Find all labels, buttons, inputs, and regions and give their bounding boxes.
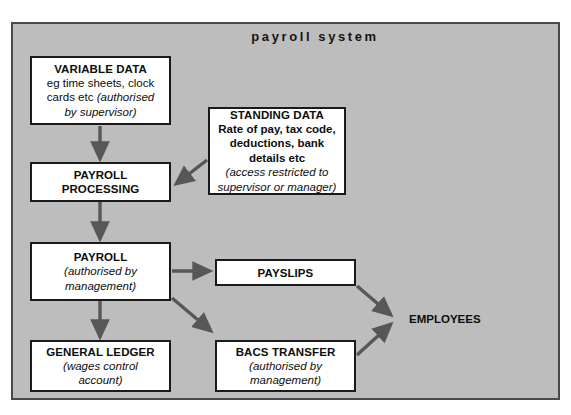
- variable-data-line2-italic: (authorised: [97, 91, 155, 103]
- node-general-ledger[interactable]: GENERAL LEDGER (wages control account): [30, 340, 171, 392]
- standing-data-note2: supervisor or manager): [218, 180, 337, 195]
- general-ledger-note1: (wages control: [63, 359, 138, 374]
- variable-data-line2-plain: cards etc: [47, 91, 97, 103]
- variable-data-title: VARIABLE DATA: [54, 62, 147, 76]
- bacs-transfer-note1: (authorised by: [249, 359, 322, 374]
- diagram-title: payroll system: [200, 29, 430, 44]
- payroll-processing-title-line2: PROCESSING: [62, 182, 140, 196]
- standing-data-line1: Rate of pay, tax code,: [218, 122, 335, 137]
- variable-data-line3: by supervisor): [64, 105, 136, 120]
- standing-data-line2: deductions, bank: [230, 136, 325, 151]
- payroll-note2: management): [65, 279, 136, 294]
- payslips-title: PAYSLIPS: [258, 266, 314, 280]
- standing-data-line3: details etc: [249, 151, 305, 166]
- variable-data-line1: eg time sheets, clock: [47, 76, 154, 91]
- diagram-canvas: payroll system VARIABLE: [0, 0, 571, 415]
- general-ledger-note2: account): [78, 373, 122, 388]
- node-variable-data[interactable]: VARIABLE DATA eg time sheets, clock card…: [30, 56, 171, 125]
- payroll-title: PAYROLL: [74, 250, 128, 264]
- node-employees: EMPLOYEES: [409, 313, 481, 325]
- standing-data-note1: (access restricted to: [226, 165, 329, 180]
- payroll-note1: (authorised by: [64, 264, 137, 279]
- payroll-processing-title-line1: PAYROLL: [74, 168, 128, 182]
- node-standing-data[interactable]: STANDING DATA Rate of pay, tax code, ded…: [208, 107, 346, 195]
- bacs-transfer-note2: management): [250, 373, 321, 388]
- general-ledger-title: GENERAL LEDGER: [46, 345, 155, 359]
- node-payslips[interactable]: PAYSLIPS: [215, 259, 356, 286]
- standing-data-title: STANDING DATA: [230, 108, 324, 122]
- variable-data-line2: cards etc (authorised: [47, 90, 154, 105]
- node-payroll-processing[interactable]: PAYROLL PROCESSING: [30, 162, 171, 202]
- bacs-transfer-title: BACS TRANSFER: [236, 345, 336, 359]
- node-payroll[interactable]: PAYROLL (authorised by management): [30, 242, 171, 301]
- node-bacs-transfer[interactable]: BACS TRANSFER (authorised by management): [215, 340, 356, 392]
